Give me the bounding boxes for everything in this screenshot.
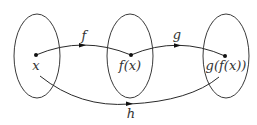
- label-x: x: [32, 58, 40, 73]
- label-map-f: f: [81, 28, 89, 43]
- map-h-arrow: [40, 76, 219, 104]
- map-f-arrow: [36, 45, 131, 55]
- map-g-arrowhead: [174, 43, 181, 48]
- point-x: [34, 53, 38, 57]
- label-map-g: g: [173, 27, 181, 42]
- composition-diagram: x f(x) g(f(x)) f g h: [0, 0, 257, 125]
- map-g-arrow: [131, 45, 225, 56]
- label-fx: f(x): [118, 58, 141, 73]
- label-map-h: h: [127, 106, 135, 121]
- label-gfx: g(f(x)): [206, 58, 247, 73]
- map-f-arrowhead: [79, 43, 86, 48]
- point-fx: [129, 53, 133, 57]
